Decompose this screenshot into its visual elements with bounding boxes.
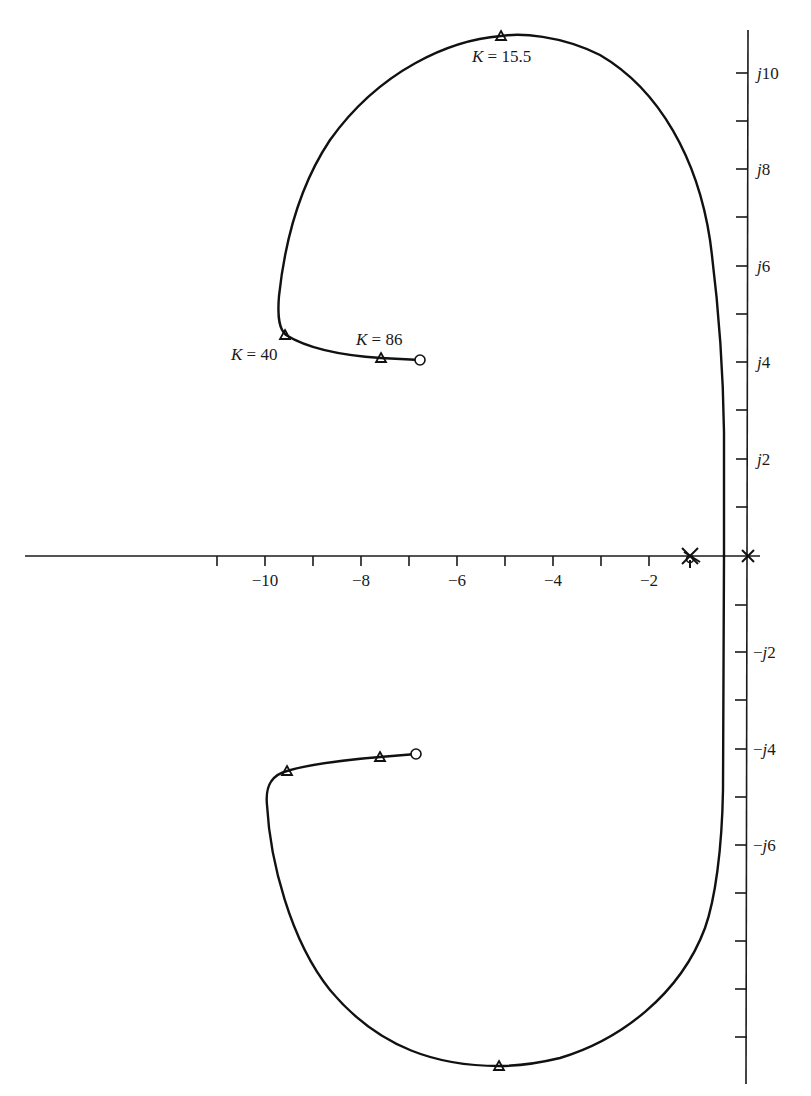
double-pole-cross-marker [682, 548, 700, 568]
x-label-minus6: −6 [448, 571, 466, 590]
annotation-k-86: K = 86 [355, 330, 402, 349]
y-label-minus-j2: −j2 [753, 643, 776, 662]
annotation-k-40: K = 40 [230, 345, 277, 364]
gain-markers [280, 31, 506, 1070]
y-label-minus-j6: −j6 [753, 836, 776, 855]
y-label-j6: j6 [755, 257, 770, 276]
x-label-minus4: −4 [544, 571, 563, 590]
imag-axis-labels-negative: −j2 −j4 −j6 [753, 643, 776, 855]
poles [682, 548, 754, 568]
x-label-minus2: −2 [640, 571, 658, 590]
real-axis-ticks [217, 556, 649, 566]
annotation-k-15-5: K = 15.5 [471, 47, 531, 66]
upper-zero-circle-marker [415, 355, 425, 365]
lower-zero-circle-marker [411, 749, 421, 759]
x-label-minus8: −8 [352, 571, 370, 590]
lower-locus-branch [267, 556, 724, 1066]
root-locus-plot: −10 −8 −6 −4 −2 j10 j8 j6 j4 j2 −j2 −j4 … [0, 0, 811, 1096]
imag-axis-labels-positive: j10 j8 j6 j4 j2 [755, 64, 779, 469]
y-label-j2: j2 [755, 450, 770, 469]
real-axis-labels: −10 −8 −6 −4 −2 [252, 571, 658, 590]
y-label-minus-j4: −j4 [753, 740, 776, 759]
upper-locus-branch [278, 35, 724, 556]
y-label-j8: j8 [755, 160, 770, 179]
y-label-j10: j10 [755, 64, 779, 83]
x-label-minus10: −10 [252, 571, 279, 590]
y-label-j4: j4 [755, 353, 771, 372]
